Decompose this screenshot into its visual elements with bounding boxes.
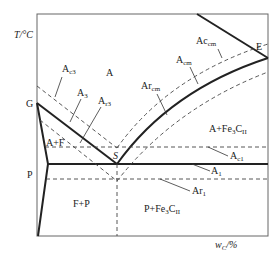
label-ac1: Ac1: [230, 151, 244, 163]
label-a1: A1: [211, 166, 222, 178]
region-austenite-cementite: A+Fe3CII: [209, 124, 247, 136]
leader-ac1: [208, 147, 228, 156]
region-austenite: A: [106, 68, 113, 78]
label-accm: Accm: [196, 36, 216, 48]
leader-ac3: [55, 77, 62, 97]
point-s: S: [113, 151, 118, 161]
label-ar3: Ar3: [98, 96, 111, 108]
region-austenite-ferrite: A+F: [46, 138, 64, 148]
gp-line: [37, 103, 48, 236]
y-axis-label: T/°C: [14, 30, 33, 40]
label-arcm: Arcm: [141, 81, 160, 93]
leader-ar3: [80, 107, 101, 143]
label-ac3: Ac3: [62, 64, 76, 76]
label-ar1: Ar1: [192, 186, 206, 198]
leader-a3: [70, 99, 81, 122]
point-g: G: [26, 99, 33, 109]
region-pearlite-cementite: P+Fe3CII: [144, 204, 180, 216]
es-line-acm: [117, 58, 268, 164]
point-p: P: [27, 170, 33, 180]
leader-accm: [218, 49, 222, 58]
point-e: E: [256, 42, 262, 52]
x-axis-label: wC/%: [215, 240, 237, 252]
leader-a1: [192, 164, 210, 171]
region-ferrite-pearlite: F+P: [73, 199, 90, 209]
label-a3: A3: [77, 88, 88, 100]
gs-line-a3: [37, 103, 117, 164]
ar3-line: [40, 120, 117, 181]
leader-ar1: [160, 179, 190, 191]
label-acm: Acm: [176, 55, 192, 67]
